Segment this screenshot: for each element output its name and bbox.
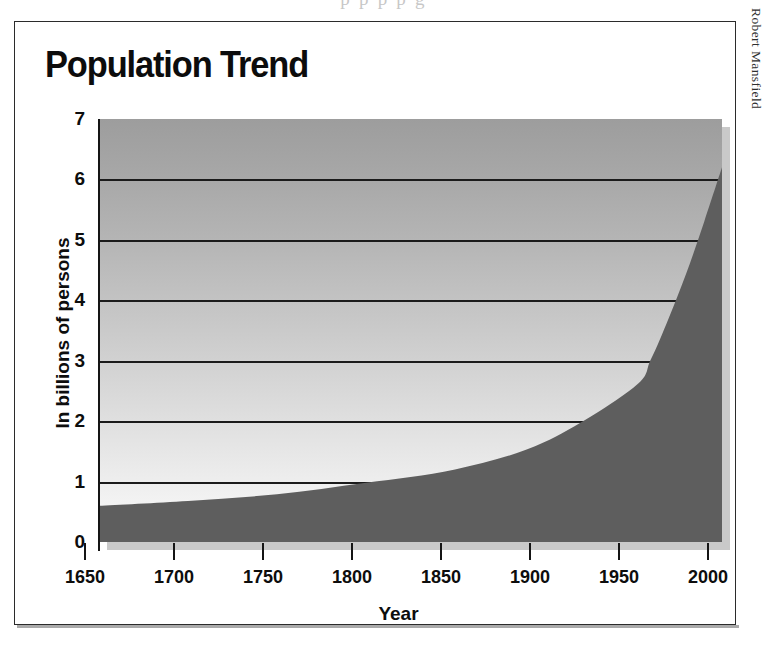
x-tick-mark (84, 543, 86, 560)
x-axis-ticks: 1650 1700 1750 1800 1850 1900 1950 2000 (15, 22, 767, 646)
x-tick-label: 1700 (139, 567, 209, 588)
x-tick-label: 1800 (317, 567, 387, 588)
x-tick-mark (262, 543, 264, 560)
x-axis-title: Year (15, 603, 767, 625)
x-tick-label: 1950 (584, 567, 654, 588)
figure-frame: Population Trend 7 6 5 4 3 2 1 0 1650 17… (14, 21, 736, 625)
y-axis-title: In billions of persons (52, 203, 74, 463)
x-tick-label: 1900 (495, 567, 565, 588)
author-credit: Robert Mansfield (748, 8, 764, 109)
x-tick-label: 1650 (50, 567, 120, 588)
x-tick-mark (440, 543, 442, 560)
page-top-bleed-text: p p p p g (0, 0, 767, 10)
x-tick-label: 1750 (228, 567, 298, 588)
x-tick-label: 2000 (673, 567, 743, 588)
x-tick-label: 1850 (406, 567, 476, 588)
x-tick-mark (529, 543, 531, 560)
x-tick-mark (707, 543, 709, 560)
x-tick-mark (351, 543, 353, 560)
x-tick-mark (618, 543, 620, 560)
x-tick-mark (173, 543, 175, 560)
